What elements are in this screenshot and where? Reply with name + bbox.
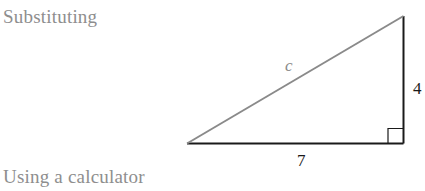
right-angle-marker-icon — [388, 129, 404, 144]
right-triangle-figure: c 4 7 — [0, 0, 425, 191]
vertical-leg-label: 4 — [413, 79, 422, 98]
hypotenuse-label: c — [285, 56, 293, 75]
horizontal-leg-label: 7 — [297, 151, 306, 170]
caption-using-calculator: Using a calculator — [3, 166, 145, 188]
hypotenuse — [187, 16, 404, 144]
